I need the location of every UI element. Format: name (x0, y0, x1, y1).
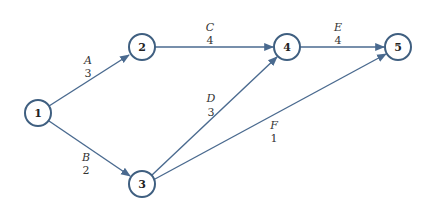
edge-F: F 1 (155, 54, 386, 179)
network-diagram: A 3 B 2 C 4 D 3 E 4 F 1 1 2 3 4 (0, 0, 436, 220)
edge-C-activity: C (206, 21, 215, 34)
edge-F-activity: F (269, 119, 278, 132)
edge-C: C 4 (155, 21, 273, 47)
node-2-label: 2 (138, 41, 146, 54)
edge-B: B 2 (49, 121, 130, 177)
node-5-label: 5 (394, 41, 402, 54)
node-3: 3 (129, 171, 155, 197)
node-2: 2 (129, 34, 155, 60)
edge-C-duration: 4 (207, 34, 214, 47)
node-4-label: 4 (283, 41, 291, 54)
edge-B-activity: B (81, 151, 90, 164)
node-3-label: 3 (138, 178, 146, 191)
edge-D-activity: D (206, 92, 216, 105)
edge-E: E 4 (300, 21, 384, 47)
edge-D-duration: 3 (208, 106, 215, 119)
edge-D: D 3 (152, 57, 277, 175)
edge-B-duration: 2 (83, 164, 90, 177)
edge-A-duration: 3 (85, 67, 92, 80)
edge-E-activity: E (333, 21, 342, 34)
edge-A: A 3 (49, 54, 129, 106)
node-5: 5 (385, 34, 411, 60)
edge-E-duration: 4 (335, 34, 342, 47)
edge-F-duration: 1 (271, 132, 278, 145)
edge-A-activity: A (83, 54, 92, 67)
node-1-label: 1 (34, 107, 42, 120)
node-1: 1 (25, 100, 51, 126)
node-4: 4 (274, 34, 300, 60)
